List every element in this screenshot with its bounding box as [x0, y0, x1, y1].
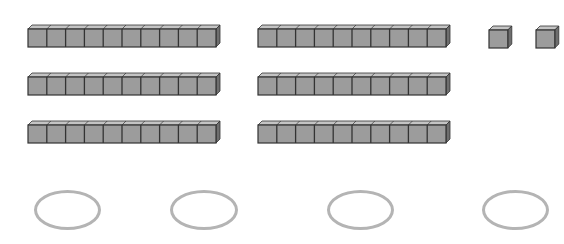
answer-oval-1[interactable] [34, 190, 101, 230]
unit-cube-2 [535, 25, 560, 49]
tens-group-left-rod-3 [27, 120, 221, 144]
tens-group-middle-rod-1 [257, 24, 451, 48]
tens-group-left-rod-2 [27, 72, 221, 96]
tens-group-left-rod-1 [27, 24, 221, 48]
answer-oval-2[interactable] [170, 190, 238, 230]
tens-group-middle-rod-3 [257, 120, 451, 144]
unit-cube-1 [488, 25, 513, 49]
answer-oval-4[interactable] [482, 190, 549, 230]
answer-oval-3[interactable] [327, 190, 394, 230]
tens-group-middle-rod-2 [257, 72, 451, 96]
